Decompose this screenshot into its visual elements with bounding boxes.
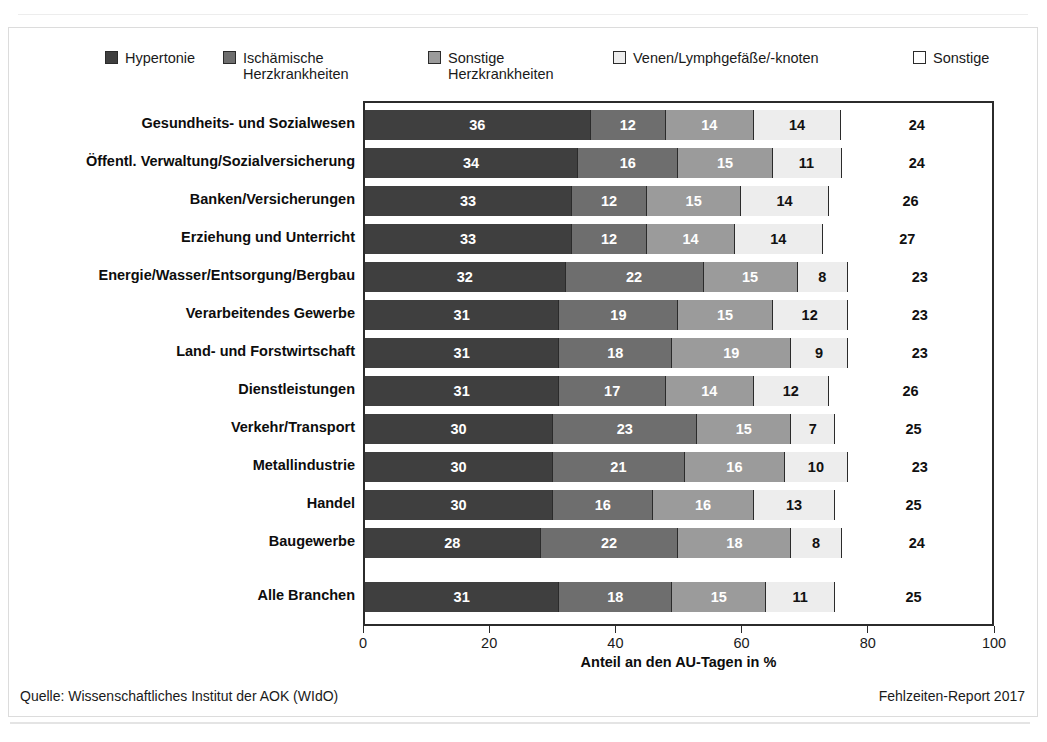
bar-segment-value: 25 — [906, 421, 922, 437]
bar-segment: 14 — [666, 110, 754, 140]
bar-segment: 15 — [697, 414, 791, 444]
category-label: Baugewerbe — [0, 533, 355, 550]
bar-segment-value: 8 — [812, 535, 820, 551]
bar-segment: 14 — [647, 224, 735, 254]
bar-segment: 12 — [591, 110, 666, 140]
x-axis: 020406080100 — [363, 626, 994, 656]
bar-row: 3416151124 — [365, 148, 992, 178]
bar-segment-value: 31 — [454, 589, 470, 605]
bar-segment-value: 23 — [912, 269, 928, 285]
bar-segment: 16 — [685, 452, 785, 482]
bar-segment-value: 31 — [454, 345, 470, 361]
bar-segment-value: 12 — [802, 307, 818, 323]
category-label: Metallindustrie — [0, 457, 355, 474]
bar-segment-value: 30 — [450, 421, 466, 437]
footer-report: Fehlzeiten-Report 2017 — [879, 688, 1025, 704]
bar-segment: 11 — [773, 148, 842, 178]
legend-item-2[interactable]: Sonstige Herzkrankheiten — [428, 50, 554, 82]
bar-segment-value: 25 — [906, 497, 922, 513]
bar-segment-value: 15 — [717, 155, 733, 171]
bar-segment: 14 — [741, 186, 829, 216]
bar-segment: 19 — [559, 300, 678, 330]
bar-segment-value: 24 — [909, 535, 925, 551]
bar-row: 3021161023 — [365, 452, 992, 482]
bar-segment-value: 28 — [444, 535, 460, 551]
bar-segment: 9 — [791, 338, 847, 368]
bar-segment-value: 25 — [906, 589, 922, 605]
bar-segment-value: 34 — [463, 155, 479, 171]
legend-item-1[interactable]: Ischämische Herzkrankheiten — [223, 50, 349, 82]
bar-segment: 27 — [823, 224, 992, 254]
bar-segment: 25 — [835, 582, 992, 612]
bar-segment: 30 — [365, 490, 553, 520]
bar-segment-value: 22 — [626, 269, 642, 285]
bar-segment-value: 17 — [604, 383, 620, 399]
bar-segment: 18 — [559, 582, 672, 612]
bar-segment-value: 19 — [610, 307, 626, 323]
bar-segment-value: 11 — [799, 155, 814, 171]
legend-item-label: Sonstige — [933, 50, 989, 66]
bar-segment: 33 — [365, 224, 572, 254]
bar-segment-value: 14 — [770, 231, 786, 247]
bar-segment-value: 12 — [783, 383, 799, 399]
bar-segment-value: 27 — [899, 231, 915, 247]
scan-edge-bottom — [10, 722, 1030, 724]
bar-row: 302315725 — [365, 414, 992, 444]
scan-edge-top — [18, 14, 1028, 15]
x-axis-tick-label: 0 — [359, 635, 367, 651]
plot-area: 3612141424341615112433121514263312141427… — [363, 101, 994, 626]
x-axis-tick-label: 80 — [860, 635, 876, 651]
bar-segment: 31 — [365, 582, 559, 612]
bar-segment-value: 31 — [454, 383, 470, 399]
bar-segment: 15 — [678, 300, 772, 330]
x-axis-tick-label: 100 — [982, 635, 1006, 651]
category-label: Öffentl. Verwaltung/Sozialversicherung — [0, 153, 355, 170]
bar-segment: 18 — [559, 338, 672, 368]
bar-segment: 15 — [647, 186, 741, 216]
bar-segment: 30 — [365, 452, 553, 482]
bar-segment-value: 14 — [789, 117, 805, 133]
bar-segment: 14 — [735, 224, 823, 254]
category-axis-labels: Gesundheits- und SozialwesenÖffentl. Ver… — [0, 101, 355, 626]
bar-segment-value: 16 — [595, 497, 611, 513]
bar-segment-value: 30 — [450, 497, 466, 513]
bar-segment: 25 — [835, 490, 992, 520]
bar-segment-value: 33 — [460, 231, 476, 247]
bar-segment-value: 15 — [742, 269, 758, 285]
bar-segment: 12 — [773, 300, 848, 330]
legend-item-label: Venen/Lymphgefäße/-knoten — [633, 50, 819, 66]
chart-figure: HypertonieIschämische HerzkrankheitenSon… — [0, 0, 1047, 742]
legend-item-3[interactable]: Venen/Lymphgefäße/-knoten — [613, 50, 819, 66]
bar-segment-value: 18 — [607, 589, 623, 605]
bar-segment: 33 — [365, 186, 572, 216]
category-label: Gesundheits- und Sozialwesen — [0, 115, 355, 132]
x-axis-tick — [489, 626, 490, 633]
bar-segment: 15 — [672, 582, 766, 612]
bar-segment: 16 — [653, 490, 753, 520]
legend-item-label: Hypertonie — [125, 50, 195, 66]
legend-item-4[interactable]: Sonstige — [913, 50, 989, 66]
bar-segment: 25 — [835, 414, 992, 444]
bar-segment-value: 16 — [726, 459, 742, 475]
legend-item-0[interactable]: Hypertonie — [105, 50, 195, 66]
bar-segment: 26 — [829, 186, 992, 216]
bar-segment: 23 — [848, 338, 992, 368]
category-label: Alle Branchen — [0, 587, 355, 604]
category-label: Erziehung und Unterricht — [0, 229, 355, 246]
bar-row: 3016161325 — [365, 490, 992, 520]
bar-segment: 24 — [842, 148, 992, 178]
bar-segment: 12 — [572, 224, 647, 254]
bar-segment: 15 — [704, 262, 798, 292]
bar-segment-value: 23 — [912, 307, 928, 323]
bar-segment: 10 — [785, 452, 848, 482]
bar-segment-value: 12 — [601, 193, 617, 209]
x-axis-tick — [363, 626, 364, 633]
bar-segment-value: 12 — [620, 117, 636, 133]
legend-item-label: Sonstige Herzkrankheiten — [448, 50, 554, 82]
bar-segment: 23 — [848, 452, 992, 482]
bar-segment: 12 — [572, 186, 647, 216]
legend-item-label: Ischämische Herzkrankheiten — [243, 50, 349, 82]
bar-segment: 22 — [566, 262, 704, 292]
bar-segment: 23 — [848, 262, 992, 292]
bar-segment: 26 — [829, 376, 992, 406]
